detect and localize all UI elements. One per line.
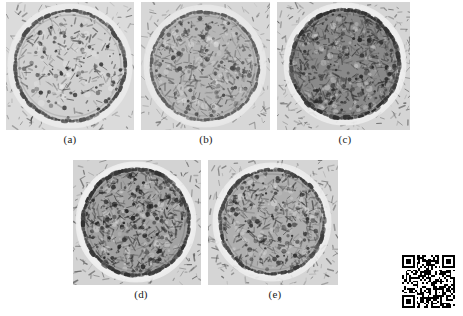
panel-caption-c: (c)	[315, 133, 375, 146]
micrograph-image-c	[277, 2, 410, 130]
micrograph-panel-b	[141, 2, 270, 130]
micrograph-image-b	[141, 2, 270, 130]
micrograph-panel-a	[6, 2, 134, 130]
micrograph-image-d	[73, 160, 201, 285]
micrograph-panel-c	[277, 2, 410, 130]
panel-caption-b: (b)	[176, 133, 236, 146]
micrograph-panel-e	[208, 160, 338, 285]
panel-caption-e: (e)	[245, 288, 305, 301]
figure-root: (a)(b)(c)(d)(e)	[0, 0, 463, 316]
qr-code-watermark	[402, 255, 455, 308]
panel-caption-d: (d)	[111, 288, 171, 301]
micrograph-panel-d	[73, 160, 201, 285]
micrograph-image-a	[6, 2, 134, 130]
micrograph-image-e	[208, 160, 338, 285]
panel-caption-a: (a)	[40, 133, 100, 146]
